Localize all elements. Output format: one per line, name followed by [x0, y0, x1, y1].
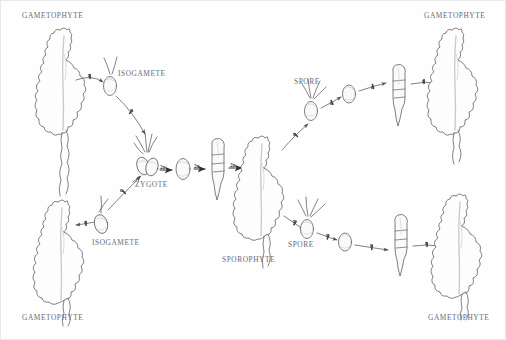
label-zygote: ZYGOTE [135, 180, 168, 189]
zygote-cell [134, 133, 160, 177]
arrow-sporophyte-to-spore-upper [282, 124, 308, 150]
ploidy-n-gametophyte-tl-arrow: n [88, 72, 91, 78]
diploid-oval-cell [176, 159, 190, 180]
ploidy-n-embryo-lower-to-gametophyte: n [425, 240, 428, 246]
thallus-gametophyte-bottom-right [431, 194, 482, 320]
life-cycle-illustration [0, 0, 506, 340]
label-isogamete-upper: ISOGAMETE [118, 69, 166, 78]
young-gametophyte-lower [395, 214, 408, 276]
ploidy-n-gametophyte-bl-arrow: n [84, 219, 87, 225]
ploidy-n-isogamete-upper-arrow: n [130, 107, 133, 113]
ploidy-n-sporophyte-to-spore-lower: n [293, 218, 296, 224]
isogamete-upper [104, 57, 118, 96]
arrow-isogamete-upper-to-zygote [116, 96, 145, 134]
label-sporophyte: SPOROPHYTE [222, 255, 275, 264]
ploidy-2n-zygote-to-egg: 2n [160, 164, 165, 170]
ploidy-2n-egg-to-embryo: 2n [194, 163, 199, 169]
label-spore-upper: SPORE [294, 77, 320, 86]
sporophyte-embryo [212, 138, 225, 200]
ploidy-2n-embryo-to-sporophyte: 2n [230, 162, 235, 168]
label-gametophyte-top-right: GAMETOPHYTE [424, 11, 485, 20]
isogamete-lower [92, 196, 109, 235]
ploidy-n-spore-lower-to-oval: n [326, 232, 329, 238]
spore-lower [298, 197, 325, 239]
ploidy-n-sporophyte-to-spore-upper: n [293, 131, 296, 137]
ploidy-n-spore-upper-to-oval: n [330, 100, 333, 106]
diagram-canvas: GAMETOPHYTE ISOGAMETE ZYGOTE ISOGAMETE G… [0, 0, 506, 340]
oval-cell-upper [343, 85, 356, 103]
ploidy-n-embryo-upper-to-gametophyte: n [422, 78, 425, 84]
label-isogamete-lower: ISOGAMETE [92, 238, 140, 247]
thallus-sporophyte [233, 136, 284, 268]
label-spore-lower: SPORE [288, 240, 314, 249]
label-gametophyte-bottom-right: GAMETOPHYTE [428, 313, 489, 322]
thallus-gametophyte-top-left [35, 28, 86, 196]
oval-cell-lower [339, 233, 352, 251]
ploidy-n-oval-lower-to-embryo: n [370, 242, 373, 248]
thallus-gametophyte-bottom-left [33, 200, 84, 326]
ploidy-n-oval-upper-to-embryo: n [371, 84, 374, 90]
thallus-gametophyte-top-right [427, 28, 478, 164]
label-gametophyte-top-left: GAMETOPHYTE [22, 11, 83, 20]
young-gametophyte-upper [393, 64, 406, 126]
ploidy-n-isogamete-lower-arrow: n [120, 187, 123, 193]
label-gametophyte-bottom-left: GAMETOPHYTE [22, 313, 83, 322]
